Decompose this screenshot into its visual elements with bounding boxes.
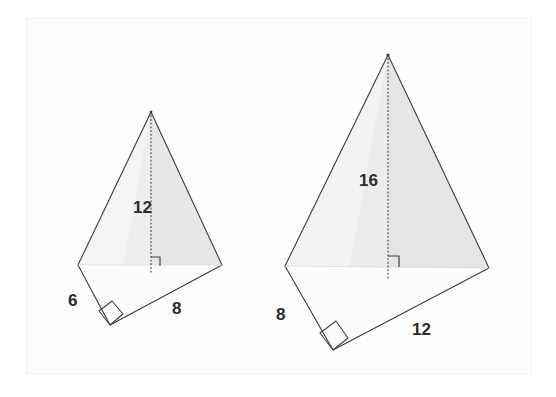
right-figure-right-edge-label: 12 [412, 320, 431, 339]
left-figure-right-edge-label: 8 [172, 299, 181, 318]
right-figure-apex-point [386, 53, 389, 56]
diagram-canvas: 12 6 8 16 [0, 0, 556, 397]
geometry-figure-svg: 12 6 8 16 [0, 0, 556, 397]
right-figure-left-edge-label: 8 [276, 305, 285, 324]
right-figure-altitude-label: 16 [359, 171, 378, 190]
left-figure-left-edge-label: 6 [68, 291, 77, 310]
left-figure-apex-point [150, 111, 153, 114]
left-figure-altitude-label: 12 [133, 198, 152, 217]
